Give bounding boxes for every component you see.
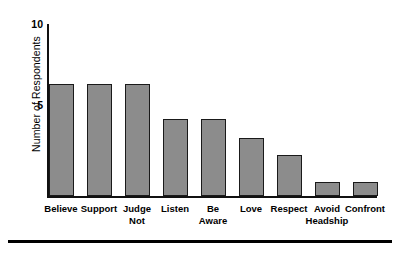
x-axis-category-label-line: Confront [338, 203, 392, 215]
bar[interactable] [239, 138, 264, 196]
x-axis-category-label-line: Aware [186, 215, 240, 227]
x-axis-baseline [47, 196, 377, 198]
bar-slot [238, 20, 276, 198]
bar[interactable] [125, 84, 150, 196]
bar-slot [314, 20, 352, 198]
bar[interactable] [49, 84, 74, 196]
bar[interactable] [201, 119, 226, 196]
bar-slot [352, 20, 390, 198]
bar-slot [276, 20, 314, 198]
bar[interactable] [87, 84, 112, 196]
plot-area [48, 20, 392, 198]
bar[interactable] [277, 155, 302, 196]
bottom-divider-rule [8, 240, 392, 243]
bar-slot [124, 20, 162, 198]
bar-chart: Number of Respondents 10 5 BelieveSuppor… [0, 0, 400, 255]
y-tick-label-10: 10 [21, 19, 43, 29]
bar[interactable] [353, 182, 378, 196]
x-axis-category-label-line: Not [110, 215, 164, 227]
bar-slot [48, 20, 86, 198]
y-tick-label-5: 5 [21, 100, 43, 110]
bar[interactable] [163, 119, 188, 196]
x-axis-category-label: Confront [338, 203, 392, 215]
x-axis-category-label-line: Headship [300, 215, 354, 227]
y-axis-title: Number of Respondents [30, 14, 42, 174]
bar-slot [162, 20, 200, 198]
bar-slot [200, 20, 238, 198]
bar-slot [86, 20, 124, 198]
bar[interactable] [315, 182, 340, 196]
